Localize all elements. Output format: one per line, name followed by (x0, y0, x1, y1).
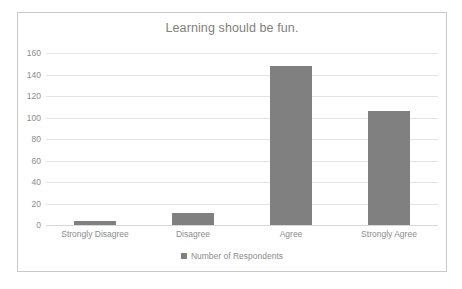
bar[interactable] (172, 213, 214, 225)
legend-label: Number of Respondents (191, 251, 283, 261)
chart-title: Learning should be fun. (18, 21, 446, 35)
y-axis-tick-label: 160 (27, 48, 41, 58)
chart-frame: Learning should be fun. 0204060801001201… (17, 12, 447, 272)
y-axis-tick-label: 120 (27, 91, 41, 101)
bar[interactable] (270, 66, 312, 225)
bar-slot (144, 53, 242, 225)
y-axis-tick-label: 0 (36, 220, 41, 230)
y-axis-tick-label: 80 (32, 134, 41, 144)
gridline: 0 (46, 225, 438, 226)
y-axis-tick-label: 40 (32, 177, 41, 187)
bar-slot (46, 53, 144, 225)
y-axis-tick-label: 140 (27, 70, 41, 80)
category-axis-labels: Strongly DisagreeDisagreeAgreeStrongly A… (46, 229, 438, 245)
y-axis-tick-label: 100 (27, 113, 41, 123)
chart-legend: Number of Respondents (18, 251, 446, 261)
plot-area: 020406080100120140160 (46, 53, 438, 225)
bar-slot (242, 53, 340, 225)
category-label: Strongly Agree (361, 229, 417, 239)
bar-slot (340, 53, 438, 225)
bar[interactable] (74, 221, 116, 225)
bar[interactable] (368, 111, 410, 225)
category-label: Agree (280, 229, 303, 239)
y-axis-tick-label: 60 (32, 156, 41, 166)
category-label: Strongly Disagree (61, 229, 129, 239)
y-axis-tick-label: 20 (32, 199, 41, 209)
legend-swatch-icon (181, 253, 187, 259)
bars-layer (46, 53, 438, 225)
category-label: Disagree (176, 229, 210, 239)
